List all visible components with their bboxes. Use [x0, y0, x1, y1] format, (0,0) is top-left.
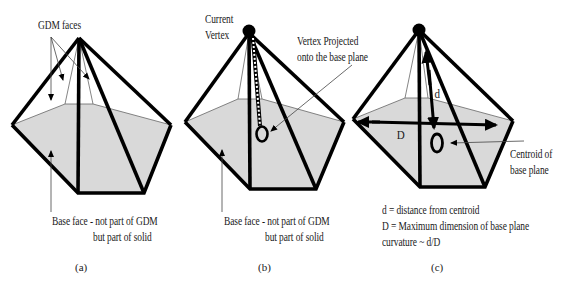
base-face-label-line2: but part of solid [93, 231, 152, 244]
legend-d-definition: d = distance from centroid [382, 204, 479, 217]
centroid-label-line2: base plane [510, 164, 549, 177]
panel-c-caption: (c) [431, 261, 443, 273]
legend-curvature: curvature ~ d/D [382, 236, 440, 249]
gdm-faces-label: GDM faces [38, 19, 81, 32]
panel-a-caption: (a) [75, 261, 87, 273]
edge [249, 33, 250, 189]
base-face-label-line1: Base face - not part of GDM [52, 215, 158, 228]
base-face-label-line1: Base face - not part of GDM [224, 215, 330, 228]
current-vertex-dot [413, 24, 426, 37]
edge [419, 30, 420, 187]
current-vertex-label-line2: Vertex [205, 29, 229, 42]
current-vertex-dot [243, 25, 256, 38]
edge [78, 38, 79, 193]
panel-b-caption: (b) [258, 261, 271, 273]
current-vertex-label-line1: Current [205, 13, 233, 26]
pyramid-figure [0, 0, 563, 288]
panel-c-pyramid [353, 24, 524, 188]
D-symbol-label: D [397, 128, 405, 141]
vertex-projected-label-line1: Vertex Projected [297, 35, 358, 48]
panel-a-pyramid [12, 37, 171, 212]
legend-D-definition: D = Maximum dimension of base plane [382, 220, 529, 233]
d-symbol-label: d [434, 87, 440, 100]
base-face-label-line2: but part of solid [265, 231, 324, 244]
vertex-projected-label-line2: onto the base plane [297, 51, 368, 64]
centroid-label-line1: Centroid of [510, 148, 552, 161]
